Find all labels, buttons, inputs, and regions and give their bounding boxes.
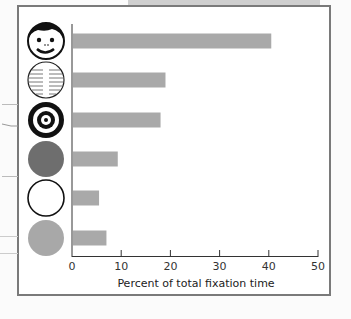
bar-face	[73, 34, 271, 49]
white-disc-icon	[28, 180, 64, 216]
x-tick-label: 30	[213, 260, 227, 273]
x-tick-label: 0	[69, 260, 76, 273]
x-axis-title: Percent of total fixation time	[117, 277, 274, 290]
bullseye-icon	[28, 102, 64, 138]
x-tick-label: 20	[163, 260, 177, 273]
bar-bull-s-eye	[73, 113, 161, 128]
x-axis-ticks: 01020304050	[69, 250, 326, 273]
bar-gray-disc	[73, 231, 106, 246]
x-tick-label: 10	[114, 260, 128, 273]
bar-white-disc	[73, 191, 99, 206]
bar-newsprint	[73, 73, 165, 88]
dark-disc-icon	[28, 141, 64, 177]
x-tick-label: 40	[262, 260, 276, 273]
bar-chart: 01020304050 Percent of total fixation ti…	[0, 0, 351, 319]
stray-curve	[2, 124, 18, 126]
x-tick-label: 50	[311, 260, 325, 273]
bar-dark-disc	[73, 152, 118, 167]
gray-disc-icon	[28, 220, 64, 256]
newsprint-icon	[28, 62, 64, 98]
face-icon	[28, 23, 64, 59]
bars-group	[73, 34, 271, 246]
